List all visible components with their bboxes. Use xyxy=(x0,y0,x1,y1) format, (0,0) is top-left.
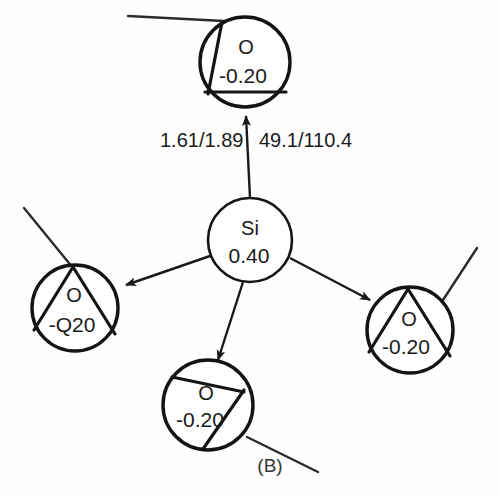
atom-element-label-silicon: Si xyxy=(241,217,259,239)
atom-element-label-top: O xyxy=(238,36,254,58)
atom-element-label-left: O xyxy=(66,284,82,306)
bond-angle-label: 49.1/110.4 xyxy=(259,129,352,151)
atom-node-left-oxygen: O -Q20 xyxy=(32,265,118,351)
atom-charge-label-bottom: -0.20 xyxy=(176,408,224,431)
atom-circle-left-oxygen xyxy=(32,265,118,351)
atom-charge-label-top: -0.20 xyxy=(219,64,267,87)
bond-length-label: 1.61/1.89 xyxy=(160,129,243,151)
bond-si-to-top-oxygen xyxy=(246,116,250,198)
atom-element-label-bottom: O xyxy=(198,382,214,404)
atom-node-top-oxygen: O -0.20 xyxy=(200,17,290,107)
atom-node-bottom-oxygen: O -0.20 xyxy=(163,360,253,450)
atom-circle-silicon xyxy=(208,198,292,282)
atom-circle-bottom-oxygen xyxy=(163,360,253,450)
panel-label: (B) xyxy=(257,455,282,476)
atom-element-label-right: O xyxy=(401,308,417,330)
tail-line-right-oxygen xyxy=(443,248,477,300)
atom-node-silicon: Si 0.40 xyxy=(208,198,292,282)
bond-si-to-right-oxygen xyxy=(290,258,370,300)
atom-node-right-oxygen: O -0.20 xyxy=(367,287,453,373)
molecular-diagram: O -0.20 O -Q20 O -0.20 O -0.20 Si 0.40 1… xyxy=(0,0,500,495)
atom-charge-label-right: -0.20 xyxy=(382,335,430,358)
atom-charge-label-silicon: 0.40 xyxy=(229,244,270,267)
atom-charge-label-left: -Q20 xyxy=(49,313,96,336)
tail-line-left-oxygen xyxy=(24,208,73,268)
bond-si-to-left-oxygen xyxy=(126,256,210,285)
bond-si-to-bottom-oxygen xyxy=(218,282,243,360)
atom-circle-right-oxygen xyxy=(367,287,453,373)
